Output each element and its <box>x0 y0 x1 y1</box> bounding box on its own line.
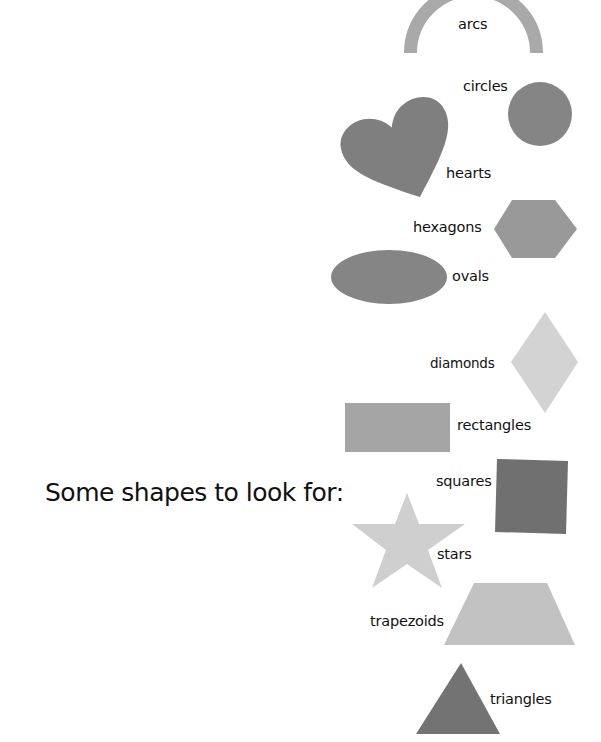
shapes-page: Some shapes to look for: arcs circles he… <box>0 0 601 742</box>
label-arcs: arcs <box>458 16 487 32</box>
label-squares: squares <box>436 473 492 489</box>
rectangle-shape <box>345 403 450 452</box>
oval-shape <box>331 250 447 304</box>
page-title: Some shapes to look for: <box>45 478 344 507</box>
hexagon-shape <box>494 200 577 258</box>
label-hexagons: hexagons <box>413 219 482 235</box>
label-stars: stars <box>437 546 472 562</box>
shapes-canvas <box>0 0 601 742</box>
label-hearts: hearts <box>446 165 491 181</box>
label-rectangles: rectangles <box>457 417 531 433</box>
label-trapezoids: trapezoids <box>370 613 444 629</box>
square-shape <box>495 459 568 534</box>
circle-shape <box>508 82 572 146</box>
label-ovals: ovals <box>452 268 489 284</box>
diamond-shape <box>511 312 578 413</box>
trapezoid-shape <box>444 583 575 645</box>
label-triangles: triangles <box>490 691 552 707</box>
star-shape <box>352 493 465 588</box>
label-diamonds: diamonds <box>430 355 495 371</box>
heart-shape <box>333 89 471 218</box>
label-circles: circles <box>463 78 508 94</box>
triangle-shape <box>416 663 500 734</box>
